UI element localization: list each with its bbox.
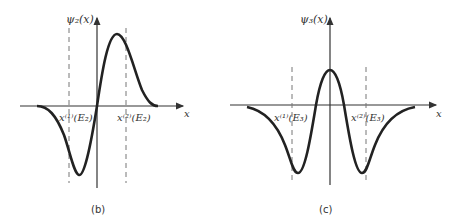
figure-canvas: ψ₂(x) x⁽¹⁾(E₂) x⁽²⁾(E₂) x (b) ψ₃(x) x⁽¹⁾… (0, 0, 456, 223)
panel-c: ψ₃(x) x⁽¹⁾(E₃) x⁽²⁾(E₃) x (c) (230, 13, 442, 215)
x-axis-label: x (436, 108, 442, 119)
turning-point-2-label: x⁽²⁾(E₂) (117, 112, 151, 123)
turning-point-1-label: x⁽¹⁾(E₂) (59, 112, 93, 123)
turning-point-1-label: x⁽¹⁾(E₃) (274, 112, 308, 123)
turning-point-2-label: x⁽²⁾(E₃) (351, 112, 385, 123)
panel-caption: (b) (91, 204, 105, 215)
panel-caption: (c) (319, 204, 332, 215)
y-axis-label: ψ₃(x) (300, 13, 328, 26)
x-axis-label: x (184, 108, 190, 119)
y-axis-label: ψ₂(x) (66, 13, 94, 26)
panel-b: ψ₂(x) x⁽¹⁾(E₂) x⁽²⁾(E₂) x (b) (20, 13, 190, 215)
wavefunction-curve (247, 70, 415, 173)
